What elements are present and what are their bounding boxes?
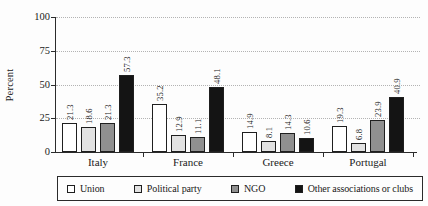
bar-value-label: 57.3 [122, 56, 132, 72]
x-axis-line [55, 152, 417, 153]
bar-value-label: 6.8 [354, 129, 364, 140]
bar-other-associations-or-clubs-portugal [389, 97, 404, 152]
legend-swatch-icon [231, 185, 239, 193]
legend-item-label: Other associations or clubs [308, 183, 413, 194]
legend-item-label: NGO [244, 183, 265, 194]
legend-item-label: Union [80, 183, 105, 194]
y-axis-line [55, 17, 56, 153]
gridline-50 [56, 85, 420, 86]
bar-value-label: 14.3 [283, 114, 293, 130]
bar-value-label: 14.9 [245, 113, 255, 129]
bar-value-label: 8.1 [264, 127, 274, 138]
bar-other-associations-or-clubs-italy [119, 75, 134, 152]
x-axis-label-italy: Italy [53, 156, 143, 168]
bar-value-label: 21.3 [103, 105, 113, 121]
bar-political-party-italy [81, 127, 96, 152]
legend-item-label: Political party [147, 183, 202, 194]
bar-value-label: 12.9 [174, 116, 184, 132]
bar-value-label: 18.6 [84, 108, 94, 124]
bar-other-associations-or-clubs-france [209, 87, 224, 152]
y-tick-label-100: 100 [16, 11, 50, 23]
x-tick-mark-4 [413, 153, 414, 157]
y-tick-label-50: 50 [16, 79, 50, 91]
bar-value-label: 10.6 [302, 119, 312, 135]
bar-political-party-france [171, 135, 186, 152]
bar-union-portugal [332, 126, 347, 152]
legend-item-other-associations-or-clubs: Other associations or clubs [295, 183, 413, 194]
y-tick-label-75: 75 [16, 45, 50, 57]
gridline-75 [56, 51, 420, 52]
bar-union-italy [62, 123, 77, 152]
x-axis-label-greece: Greece [233, 156, 323, 168]
bar-value-label: 11.1 [193, 119, 203, 134]
bar-value-label: 23.9 [373, 101, 383, 117]
x-axis-label-portugal: Portugal [323, 156, 413, 168]
bar-ngo-portugal [370, 120, 385, 152]
bar-union-france [152, 104, 167, 152]
y-tick-label-0: 0 [16, 146, 50, 158]
legend-swatch-icon [134, 185, 142, 193]
bar-political-party-greece [261, 141, 276, 152]
bar-ngo-france [190, 137, 205, 152]
bar-ngo-italy [100, 123, 115, 152]
bar-ngo-greece [280, 133, 295, 152]
gridline-100 [56, 17, 420, 18]
y-tick-label-25: 25 [16, 112, 50, 124]
bar-other-associations-or-clubs-greece [299, 138, 314, 152]
legend-item-political-party: Political party [134, 183, 202, 194]
legend-swatch-icon [67, 185, 75, 193]
bar-value-label: 48.1 [212, 68, 222, 84]
x-axis-label-france: France [143, 156, 233, 168]
legend-item-ngo: NGO [231, 183, 265, 194]
legend-item-union: Union [67, 183, 105, 194]
bar-value-label: 40.9 [392, 78, 402, 94]
bar-value-label: 19.3 [335, 107, 345, 123]
bar-value-label: 35.2 [155, 86, 165, 102]
bar-political-party-portugal [351, 143, 366, 152]
bar-union-greece [242, 132, 257, 152]
bar-value-label: 21.3 [65, 105, 75, 121]
legend: UnionPolitical partyNGOOther association… [57, 176, 423, 201]
bar-chart-figure: Percent 025507510021.318.621.357.3Italy3… [0, 0, 428, 206]
legend-swatch-icon [295, 185, 303, 193]
